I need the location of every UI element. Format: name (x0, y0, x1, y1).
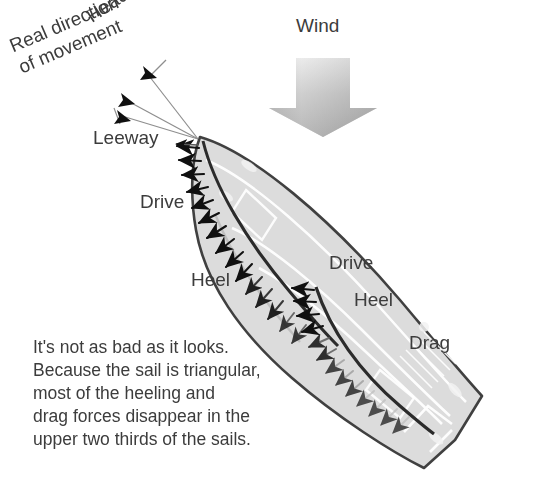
label-outer-heel: Heel (191, 268, 230, 291)
sailing-force-diagram: Wind Heading Real direction of movement … (0, 0, 541, 485)
label-inner-drag: Drag (409, 331, 450, 354)
caption-line: upper two thirds of the sails. (33, 428, 333, 451)
caption-line: drag forces disappear in the (33, 405, 333, 428)
label-wind: Wind (296, 14, 339, 37)
caption-line: Because the sail is triangular, (33, 359, 333, 382)
label-inner-heel: Heel (354, 288, 393, 311)
wind-arrow (269, 58, 377, 137)
label-outer-drive: Drive (140, 190, 184, 213)
label-leeway: Leeway (93, 126, 159, 149)
bow-direction-arrow (176, 144, 198, 145)
label-inner-drive: Drive (329, 251, 373, 274)
vector-arrowheads (114, 66, 157, 124)
caption-line: most of the heeling and (33, 382, 333, 405)
explanatory-caption: It's not as bad as it looks. Because the… (33, 336, 333, 451)
caption-line: It's not as bad as it looks. (33, 336, 333, 359)
